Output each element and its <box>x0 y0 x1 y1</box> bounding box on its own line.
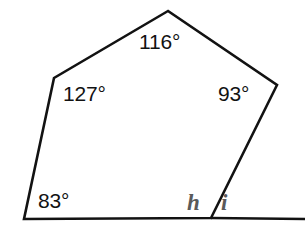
angle-label-top: 116° <box>139 31 180 52</box>
geometry-figure: 116° 127° 93° 83° h i <box>0 0 308 228</box>
angle-label-upper-left: 127° <box>63 83 106 104</box>
angle-label-i: i <box>221 191 227 214</box>
angle-label-h: h <box>187 191 200 214</box>
base-extension-line <box>211 218 305 219</box>
angle-label-bottom-left: 83° <box>38 190 69 211</box>
angle-label-upper-right: 93° <box>218 83 249 104</box>
